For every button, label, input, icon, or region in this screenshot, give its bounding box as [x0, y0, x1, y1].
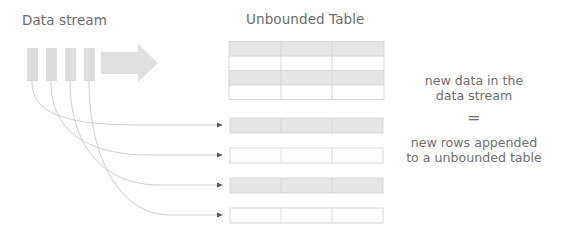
appended-row — [230, 208, 383, 223]
connector-arrow — [51, 81, 222, 155]
flow-arrow-icon — [101, 44, 158, 82]
table-row-shaded — [229, 42, 384, 57]
note-line: new rows appended — [388, 135, 560, 150]
unbounded-table — [229, 42, 384, 100]
connector-group — [32, 81, 222, 215]
note-line: to a unbounded table — [388, 150, 560, 165]
connector-arrow — [70, 81, 222, 185]
note-line: data stream — [388, 88, 560, 103]
stream-block — [27, 48, 38, 81]
appended-row — [230, 118, 383, 133]
appended-rows-group — [230, 118, 383, 223]
data-stream-title: Data stream — [22, 12, 107, 28]
note-new-data: new data in the data stream — [388, 73, 560, 103]
appended-row — [230, 148, 383, 163]
table-row-white — [229, 85, 384, 100]
stream-block — [65, 48, 76, 81]
note-new-rows: new rows appended to a unbounded table — [388, 135, 560, 165]
stream-block — [46, 48, 57, 81]
note-equals-sign: = — [388, 110, 560, 126]
stream-block-group — [27, 48, 95, 81]
table-row-shaded — [229, 71, 384, 86]
note-line: new data in the — [388, 73, 560, 88]
appended-row — [230, 178, 383, 193]
stream-to-table-diagram: Data stream Unbounded Table new data in … — [0, 0, 563, 242]
unbounded-table-title: Unbounded Table — [246, 11, 365, 27]
stream-block — [84, 48, 95, 81]
table-row-white — [229, 56, 384, 71]
connector-arrow — [89, 81, 222, 215]
